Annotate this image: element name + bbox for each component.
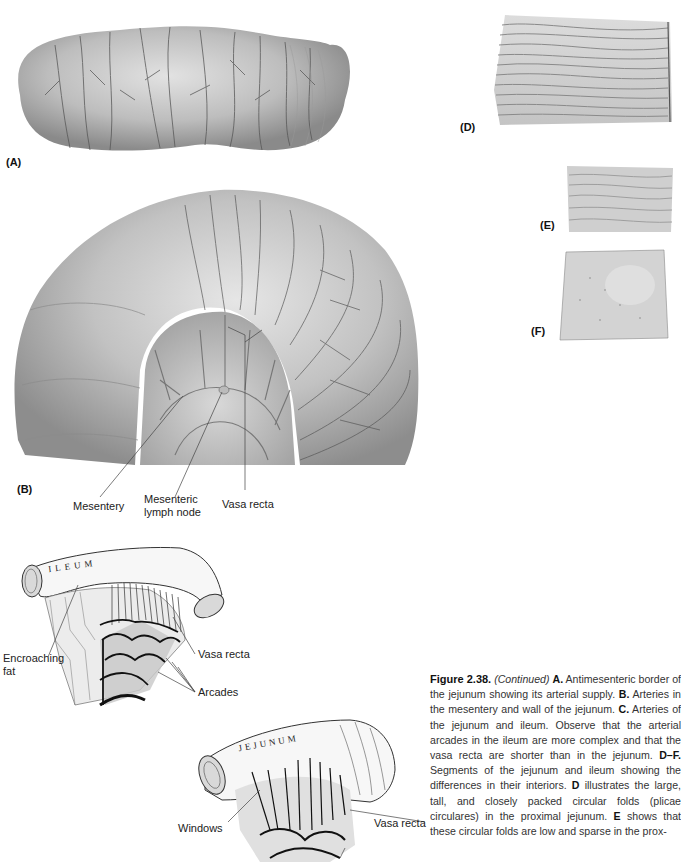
callout-mesenteric-lymph-node: Mesenteric lymph node	[144, 493, 201, 519]
caption-key-e: E	[614, 810, 621, 822]
callout-windows: Windows	[178, 822, 223, 835]
callout-vasa-recta-b: Vasa recta	[222, 498, 274, 511]
callout-line-1: Encroaching	[3, 652, 64, 665]
caption-key-d-f: D–F.	[659, 749, 681, 761]
callout-vasa-recta-ileum: Vasa recta	[198, 648, 250, 661]
panel-label-d: (D)	[460, 121, 475, 133]
caption-continued: (Continued)	[494, 673, 549, 685]
panel-label-b: (B)	[17, 483, 32, 495]
callout-mesentery: Mesentery	[73, 500, 124, 513]
figure-caption: Figure 2.38. (Continued) A. Antimesenter…	[430, 672, 681, 839]
panel-label-e: (E)	[540, 219, 555, 231]
callout-line-2: fat	[3, 665, 64, 678]
callout-line-2: lymph node	[144, 506, 201, 519]
caption-key-a: A.	[553, 673, 564, 685]
caption-key-c: C.	[619, 703, 630, 715]
panel-label-a: (A)	[6, 156, 21, 168]
caption-key-b: B.	[619, 688, 630, 700]
callout-arcades: Arcades	[198, 686, 238, 699]
figure-number: Figure 2.38.	[430, 673, 491, 685]
callout-line-1: Mesenteric	[144, 493, 201, 506]
callout-vasa-recta-jejunum: Vasa recta	[374, 817, 426, 830]
panel-label-f: (F)	[531, 325, 545, 337]
callout-encroaching-fat: Encroaching fat	[3, 652, 64, 678]
